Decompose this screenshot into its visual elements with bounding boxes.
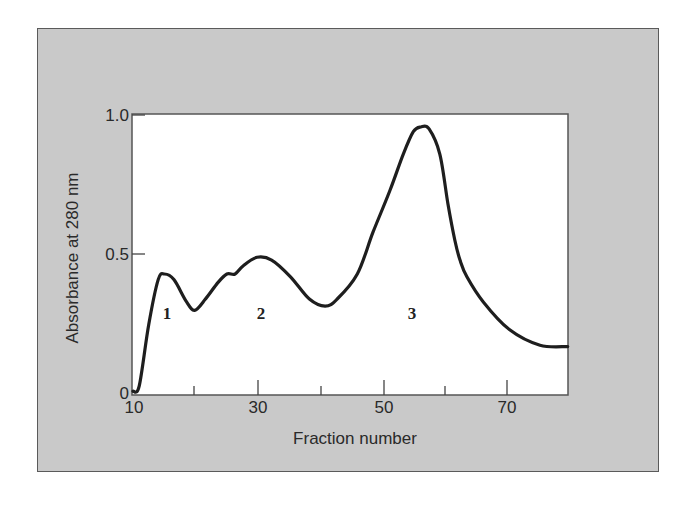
x-tick-label-50: 50 — [375, 398, 394, 417]
chromatogram-chart: 1.0 0.5 0 10 30 50 70 Fraction number Ab… — [0, 0, 695, 512]
plot-area — [132, 114, 568, 395]
x-tick-label-30: 30 — [249, 398, 268, 417]
peak-label-1: 1 — [163, 304, 172, 323]
x-tick-label-10: 10 — [125, 398, 144, 417]
x-axis-title: Fraction number — [293, 429, 417, 448]
peak-label-2: 2 — [257, 304, 266, 323]
y-axis-title: Absorbance at 280 nm — [63, 172, 82, 343]
peak-label-3: 3 — [408, 304, 417, 323]
y-tick-label-0.5: 0.5 — [105, 245, 129, 264]
x-tick-label-70: 70 — [498, 398, 517, 417]
y-tick-label-1.0: 1.0 — [105, 106, 129, 125]
